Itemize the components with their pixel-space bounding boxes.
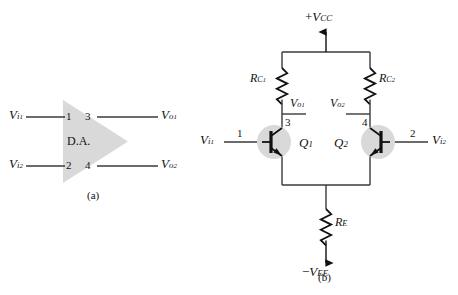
- resistor-rc2: [365, 68, 375, 104]
- block-pin-1: 1: [66, 111, 72, 122]
- block-input-label-1: Vi1: [9, 108, 23, 121]
- block-pin-2: 2: [66, 160, 72, 171]
- block-diagram-group: [26, 100, 158, 183]
- block-output-label-2: Vo2: [161, 157, 177, 170]
- resistor-label-re: RE: [335, 216, 347, 228]
- block-pin-3: 3: [85, 111, 91, 122]
- transistor-q1-symbol: [257, 125, 291, 159]
- resistor-label-rc1: RC1: [250, 72, 266, 84]
- circuit-output-label-vo2: Vo2: [330, 97, 345, 109]
- supply-vee-label: −VEE: [302, 265, 328, 278]
- supply-vcc-label: +VCC: [305, 10, 332, 23]
- circuit-group: [224, 32, 428, 263]
- circuit-pin-1: 1: [237, 128, 243, 139]
- block-input-label-2: Vi2: [9, 157, 23, 170]
- figure-differential-amplifier: Vi1 Vi2 Vo1 Vo2 1 3 2 4 D.A. (a) (b) +VC…: [0, 0, 458, 295]
- da-block-label: D.A.: [67, 135, 90, 147]
- block-output-label-1: Vo1: [161, 108, 177, 121]
- circuit-pin-2: 2: [410, 128, 416, 139]
- resistor-rc1: [277, 68, 287, 104]
- resistor-label-rc2: RC2: [379, 72, 395, 84]
- circuit-pin-3: 3: [285, 117, 291, 128]
- circuit-input-label-vi1: Vi1: [200, 133, 214, 146]
- circuit-input-label-vi2: Vi2: [432, 133, 446, 146]
- caption-a: (a): [87, 190, 99, 201]
- transistor-label-q1: Q1: [299, 136, 313, 149]
- transistor-label-q2: Q2: [334, 136, 348, 149]
- transistor-q2-symbol: [361, 125, 395, 159]
- circuit-output-label-vo1: Vo1: [290, 97, 305, 109]
- resistor-re: [321, 209, 331, 245]
- circuit-pin-4: 4: [362, 117, 368, 128]
- block-pin-4: 4: [85, 160, 91, 171]
